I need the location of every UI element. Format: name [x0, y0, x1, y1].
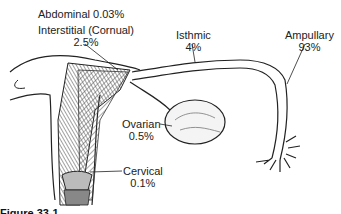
label-isthmic: Isthmic 4% [176, 29, 211, 53]
label-cervical: Cervical 0.1% [123, 165, 163, 189]
label-ampullary: Ampullary 93% [285, 29, 334, 53]
label-interstitial: Interstitial (Cornual) 2.5% [38, 24, 134, 48]
figure-caption: Figure 33-1 [0, 207, 59, 214]
uterus [10, 56, 140, 205]
label-ovarian: Ovarian 0.5% [122, 118, 161, 142]
label-abdominal: Abdominal 0.03% [38, 8, 124, 20]
ectopic-pregnancy-diagram: Abdominal 0.03% Interstitial (Cornual) 2… [0, 0, 341, 214]
